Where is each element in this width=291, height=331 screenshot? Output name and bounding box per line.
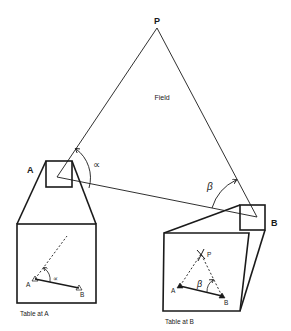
inset-A-label-B: B xyxy=(80,291,84,298)
inset-B-frame xyxy=(163,233,249,311)
alpha-angle-label: ∝ xyxy=(93,159,100,170)
diagram-canvas: P Field A B ∝ β A B ∝ Table at A P A B xyxy=(0,0,291,331)
beta-arc xyxy=(212,180,236,208)
inset-B-label-B: B xyxy=(224,299,228,306)
projection-B-left xyxy=(164,205,240,233)
field-label: Field xyxy=(154,94,169,101)
inset-A-label-A: A xyxy=(26,281,31,288)
point-label-A: A xyxy=(27,165,34,175)
inset-B-label-A: A xyxy=(171,287,176,294)
inset-B-label-P: P xyxy=(207,251,211,258)
ray-A-to-P xyxy=(57,28,157,177)
inset-A-alpha-label: ∝ xyxy=(53,275,58,282)
inset-A-caption: Table at A xyxy=(20,310,49,317)
point-label-P: P xyxy=(154,16,160,26)
field-triangle xyxy=(57,28,257,217)
inset-B-beta-label: β xyxy=(196,279,202,289)
baseline-A-B xyxy=(57,177,257,217)
projection-A-right xyxy=(72,161,96,224)
inset-B-caption: Table at B xyxy=(165,318,194,325)
inset-table-B: P A B β xyxy=(163,233,249,311)
inset-table-A: A B ∝ xyxy=(17,224,96,303)
beta-angle-label: β xyxy=(206,181,213,192)
point-label-B: B xyxy=(271,218,278,228)
